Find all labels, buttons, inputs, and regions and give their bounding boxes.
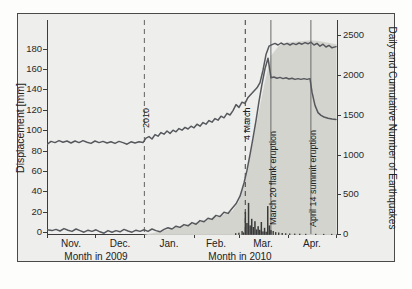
chart-svg [47,20,338,235]
plot-inner: 2010 4 March March 20 flank eruption Apr… [47,20,338,235]
plot-area: 180 160 140 120 100 80 60 40 [47,20,338,235]
y-axis-label-left: Displacement [mm] [14,83,26,173]
annotation-label-2010: 2010 [142,108,151,128]
x-label-apr: Apr. [303,238,321,249]
x-group-label-2009: Month in 2009 [64,251,127,262]
y-axis-label-right: Daily and Cumulative Number of Earthquak… [387,27,398,230]
annotation-label-4-march: 4 March [243,107,252,140]
x-label-nov: Nov. [61,238,81,249]
x-label-dec: Dec. [110,238,131,249]
figure-container: Displacement [mm] Daily and Cumulative N… [0,0,412,289]
annotation-label-march-20-flank-eruption: March 20 flank eruption [269,131,278,225]
x-label-jan: Jan. [160,238,179,249]
x-label-feb: Feb. [206,238,226,249]
annotation-label-april-14-summit-eruption: April 14 summit eruption [309,130,318,227]
x-group-label-2010: Month in 2010 [208,251,271,262]
x-label-mar: Mar. [253,238,272,249]
